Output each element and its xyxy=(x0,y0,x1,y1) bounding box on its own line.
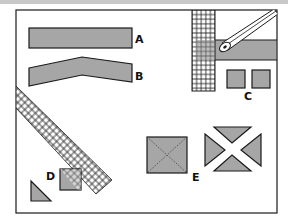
label-d: D xyxy=(46,170,55,183)
diagram-canvas: A B C D E xyxy=(0,0,288,218)
shape-c-square-left xyxy=(227,70,245,88)
shape-a-bar xyxy=(29,28,132,48)
label-b: B xyxy=(135,70,143,83)
grid-overlap-shade xyxy=(196,40,215,60)
label-e: E xyxy=(192,171,200,184)
label-a: A xyxy=(135,33,144,46)
shape-c-square-right xyxy=(252,70,270,88)
label-c: C xyxy=(244,90,252,103)
